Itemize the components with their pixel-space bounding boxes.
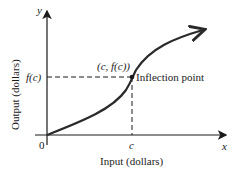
y-axis-label: y [36,4,42,16]
origin-label: 0 [39,139,45,151]
x-axis-title: Input (dollars) [100,155,164,168]
x-tick-c: c [129,139,134,151]
y-tick-fc: f(c) [26,71,42,84]
inflection-point-diagram: y x 0 c f(c) (c, f(c)) Inflection point … [0,0,235,177]
point-coordinate-label: (c, f(c)) [97,60,130,73]
inflection-point-label: Inflection point [136,71,204,83]
x-axis-label: x [221,140,227,152]
y-axis-title: Output (dollars) [9,59,22,130]
inflection-point-marker [130,75,135,80]
